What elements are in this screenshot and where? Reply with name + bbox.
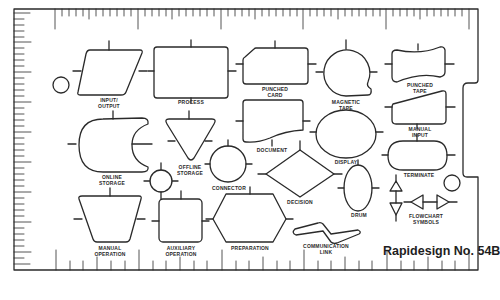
brand-label: Rapidesign No. 54B — [383, 244, 500, 258]
small-circle-left — [53, 77, 69, 93]
punched-tape-shape — [385, 44, 454, 82]
input-output-shape — [73, 41, 147, 95]
punched-card-shape — [236, 41, 316, 84]
label-manual-input: MANUAL INPUT — [409, 126, 432, 138]
label-manual-operation: MANUAL OPERATION — [94, 245, 125, 257]
drum-shape — [338, 160, 379, 211]
template-border — [14, 9, 478, 270]
process-shape — [148, 40, 236, 103]
label-communication-link: COMMUNICATION LINK — [303, 243, 349, 255]
label-display: DISPLAY — [335, 159, 358, 165]
communication-link-shape — [293, 223, 360, 244]
preparation-shape — [206, 187, 293, 242]
magnetic-tape-shape — [316, 40, 377, 96]
terminate-shape — [382, 134, 455, 170]
label-punched-tape: PUNCHED TAPE — [407, 82, 433, 94]
left-ruler — [14, 13, 31, 264]
label-magnetic-tape: MAGNETIC TAPE — [332, 99, 360, 111]
small-connector-shape — [144, 163, 178, 199]
manual-operation-shape — [74, 188, 145, 242]
label-auxiliary-operation: AUXILIARY OPERATION — [165, 245, 196, 257]
label-online-storage: ONLINE STORAGE — [99, 174, 125, 186]
label-input-output: INPUT/ OUTPUT — [98, 97, 120, 109]
connector-shape — [205, 140, 252, 182]
online-storage-shape — [68, 111, 152, 172]
label-offline-storage: OFFLINE STORAGE — [177, 164, 203, 176]
small-circle-right — [444, 175, 460, 191]
label-punched-card: PUNCHED CARD — [262, 86, 288, 98]
label-preparation: PREPARATION — [231, 245, 269, 251]
top-ruler — [55, 9, 469, 29]
label-document: DOCUMENT — [257, 147, 288, 153]
label-decision: DECISION — [287, 199, 313, 205]
label-terminate: TERMINATE — [404, 172, 435, 178]
offline-storage-shape — [166, 111, 215, 160]
document-shape — [236, 100, 310, 146]
label-connector: CONNECTOR — [212, 185, 246, 191]
manual-input-shape — [385, 91, 455, 129]
display-shape — [310, 110, 383, 158]
label-drum: DRUM — [351, 212, 367, 218]
label-process: PROCESS — [178, 99, 204, 105]
label-flowchart-symbols: FLOWCHART SYMBOLS — [409, 213, 443, 225]
